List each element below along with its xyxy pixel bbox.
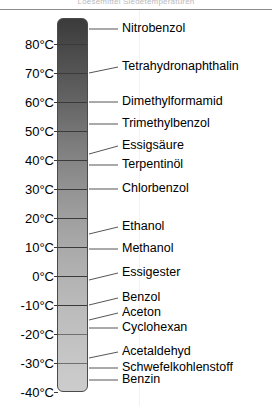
substance-leader-line	[89, 366, 118, 370]
thermometer-gradation	[58, 247, 87, 248]
substance-leader-line	[89, 187, 118, 191]
substance-name: Methanol	[122, 242, 173, 255]
substance-leader-line	[89, 378, 118, 382]
thermometer-gradation	[58, 218, 87, 219]
axis-tick-stub	[54, 160, 58, 161]
axis-tick-label: 80°C	[0, 38, 54, 51]
substance-name: Chlorbenzol	[122, 182, 189, 195]
axis-tick-label: 70°C	[0, 67, 54, 80]
axis-tick-label: 40°C	[0, 154, 54, 167]
axis-tick-stub	[54, 44, 58, 45]
temperature-axis: 80°C70°C60°C50°C40°C30°C20°C10°C0°C-10°C…	[0, 0, 54, 406]
axis-tick-label: 60°C	[0, 96, 54, 109]
substance-leader-line	[89, 311, 118, 322]
thermometer-gradation	[58, 160, 87, 161]
substance-name: Acetaldehyd	[122, 345, 191, 358]
axis-tick-stub	[54, 102, 58, 103]
axis-tick-label: 30°C	[0, 183, 54, 196]
substance-leader-line	[89, 163, 118, 167]
thermometer-gradation	[58, 276, 87, 277]
axis-tick-label: -20°C	[0, 328, 54, 341]
substance-leader-line	[89, 350, 118, 360]
substance-leader-line	[89, 144, 118, 156]
substance-leader-line	[89, 122, 118, 126]
axis-tick-stub	[54, 218, 58, 219]
axis-tick-label: -30°C	[0, 357, 54, 370]
substance-name: Terpentinöl	[122, 158, 183, 171]
thermometer-gradation	[58, 44, 87, 45]
axis-tick-stub	[54, 334, 58, 335]
substance-leader-line	[89, 296, 118, 307]
axis-tick-label: 0°C	[0, 270, 54, 283]
substance-name: Aceton	[122, 306, 161, 319]
substance-leader-line	[89, 326, 118, 330]
thermometer-gradation	[58, 102, 87, 103]
axis-tick-label: 50°C	[0, 125, 54, 138]
axis-tick-stub	[54, 276, 58, 277]
substance-name: Cyclohexan	[122, 321, 187, 334]
thermometer-gradation	[58, 305, 87, 306]
substance-name: Benzol	[122, 291, 160, 304]
thermometer-column	[57, 18, 88, 392]
substance-name: Nitrobenzol	[122, 22, 185, 35]
substance-leader-line	[89, 247, 118, 251]
axis-tick-stub	[54, 131, 58, 132]
axis-tick-stub	[54, 392, 58, 393]
thermometer-gradation	[58, 131, 87, 132]
substance-name: Trimethylbenzol	[122, 117, 210, 130]
axis-tick-label: 20°C	[0, 212, 54, 225]
thermometer-gradation	[58, 334, 87, 335]
axis-tick-stub	[54, 73, 58, 74]
substance-leader-line	[89, 271, 118, 282]
substance-name: Essigester	[122, 266, 180, 279]
substance-leader-line	[89, 65, 118, 75]
substance-leader-line	[89, 27, 118, 31]
thermometer-gradation	[58, 73, 87, 74]
axis-tick-label: -40°C	[0, 386, 54, 399]
substance-name: Ethanol	[122, 220, 164, 233]
substance-name: Essigsäure	[122, 139, 184, 152]
substance-name: Benzin	[122, 373, 160, 386]
thermometer-gradation	[58, 363, 87, 364]
axis-tick-stub	[54, 305, 58, 306]
axis-tick-stub	[54, 363, 58, 364]
substance-name: Dimethylformamid	[122, 95, 223, 108]
substance-leader-line	[89, 225, 118, 236]
thermometer-gradation	[58, 189, 87, 190]
axis-tick-label: 10°C	[0, 241, 54, 254]
substance-leader-line	[89, 100, 118, 104]
axis-tick-stub	[54, 189, 58, 190]
axis-tick-label: -10°C	[0, 299, 54, 312]
substance-name: Tetrahydronaphthalin	[122, 60, 239, 73]
axis-tick-stub	[54, 247, 58, 248]
